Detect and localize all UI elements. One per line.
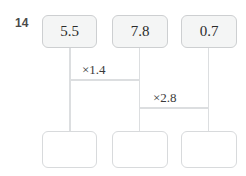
value-box-top-1: 5.5: [42, 15, 97, 48]
answer-box-bottom-1[interactable]: [42, 131, 97, 168]
connector-bridge-operation-1: [69, 79, 140, 81]
connector-bridge-operation-2: [139, 107, 209, 109]
connector-stem-column-3: [208, 48, 210, 131]
value-box-top-3: 0.7: [181, 15, 237, 48]
connector-stem-column-2: [139, 48, 141, 131]
answer-box-bottom-3[interactable]: [181, 131, 237, 168]
question-number: 14: [15, 16, 29, 30]
connector-stem-column-1: [69, 48, 71, 131]
value-box-top-2: 7.8: [112, 15, 168, 48]
operation-label-1: ×1.4: [79, 63, 109, 77]
operation-label-2: ×2.8: [150, 91, 180, 105]
worksheet-canvas: 14 5.5 7.8 0.7 ×1.4 ×2.8: [0, 0, 246, 176]
answer-box-bottom-2[interactable]: [112, 131, 168, 168]
